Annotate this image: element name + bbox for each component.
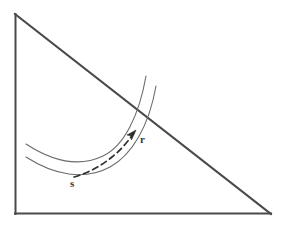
figure-container: s r (0, 0, 281, 230)
inner-arc (26, 86, 156, 175)
label-s: s (70, 177, 75, 189)
outer-arc (26, 76, 146, 162)
label-r: r (140, 133, 145, 145)
curved-band (26, 76, 156, 175)
triangle-hypotenuse (15, 14, 271, 214)
arrowhead-icon (127, 130, 136, 140)
geometric-diagram-svg: s r (0, 0, 281, 230)
right-triangle (15, 14, 271, 214)
